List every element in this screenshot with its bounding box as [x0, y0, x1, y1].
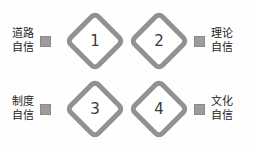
label-road-confidence-line2: 自信 — [12, 41, 34, 55]
square-marker-theory-confidence — [194, 36, 205, 47]
label-road-confidence: 道路 自信 — [12, 27, 34, 55]
diamond-number-3: 3 — [83, 99, 107, 119]
four-confidences-diagram: 道路 自信 制度 自信 理论 自信 文化 自信 1 2 3 4 — [0, 0, 255, 149]
label-system-confidence: 制度 自信 — [12, 95, 34, 123]
label-group-road-confidence: 道路 自信 — [12, 24, 51, 58]
label-theory-confidence-line2: 自信 — [211, 41, 233, 55]
diamond-number-4: 4 — [147, 99, 171, 119]
label-system-confidence-line1: 制度 — [12, 95, 34, 109]
label-group-system-confidence: 制度 自信 — [12, 92, 51, 126]
label-cultural-confidence: 文化 自信 — [211, 95, 233, 123]
label-theory-confidence: 理论 自信 — [211, 27, 233, 55]
label-group-theory-confidence: 理论 自信 — [194, 24, 233, 58]
square-marker-road-confidence — [40, 36, 51, 47]
diamond-cluster: 1 2 3 4 — [64, 10, 191, 141]
label-group-cultural-confidence: 文化 自信 — [194, 92, 233, 126]
label-cultural-confidence-line2: 自信 — [211, 109, 233, 123]
label-system-confidence-line2: 自信 — [12, 109, 34, 123]
diamond-number-1: 1 — [83, 31, 107, 51]
diamond-number-2: 2 — [147, 31, 171, 51]
square-marker-system-confidence — [40, 104, 51, 115]
label-cultural-confidence-line1: 文化 — [211, 95, 233, 109]
square-marker-cultural-confidence — [194, 104, 205, 115]
label-road-confidence-line1: 道路 — [12, 27, 34, 41]
label-theory-confidence-line1: 理论 — [211, 27, 233, 41]
